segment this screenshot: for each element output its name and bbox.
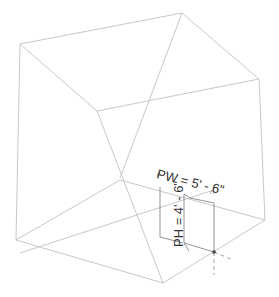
model-edge	[182, 13, 259, 79]
model-edge	[16, 44, 20, 240]
wireframe-model: PW = 5' - 6" PH = 4' - 6"	[0, 0, 279, 297]
model-edge	[16, 240, 163, 283]
axis-horizontal	[214, 252, 233, 260]
model-edge	[97, 111, 163, 283]
model-edge	[97, 79, 259, 111]
model-edge	[16, 180, 120, 240]
3d-viewport[interactable]: PW = 5' - 6" PH = 4' - 6"	[0, 0, 279, 297]
model-edge	[20, 13, 182, 44]
reference-axes	[214, 252, 233, 275]
model-edge	[120, 13, 182, 178]
height-parameter-label[interactable]: PH = 4' - 6"	[171, 181, 186, 247]
model-edge	[259, 79, 265, 220]
model-edges	[16, 13, 265, 283]
model-edge	[20, 44, 97, 111]
opening-frame[interactable]	[160, 187, 214, 252]
anchor-point[interactable]	[212, 250, 216, 254]
